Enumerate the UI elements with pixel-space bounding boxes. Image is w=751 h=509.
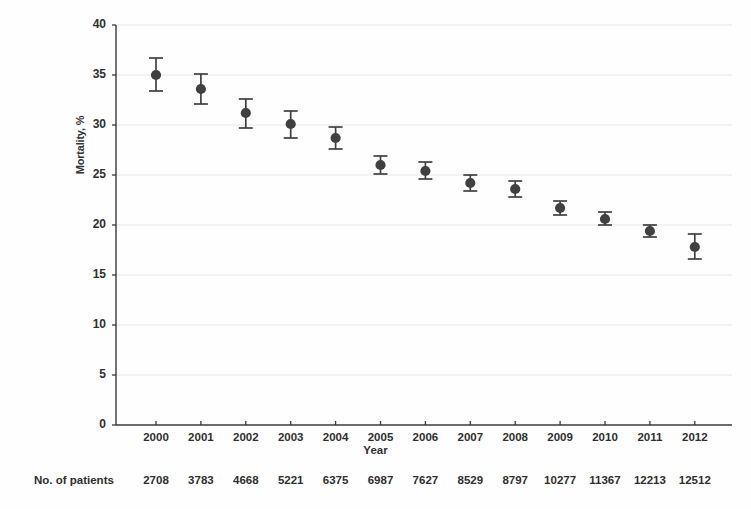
patient-counts-row: No. of patients 270837834668522163756987… [0, 474, 751, 496]
data-point-group [194, 74, 208, 104]
data-point-marker [196, 84, 206, 94]
x-axis-tick-label: 2012 [667, 431, 723, 443]
data-point-marker [375, 160, 385, 170]
data-point-group [239, 99, 253, 128]
data-point-group [418, 162, 432, 179]
data-point-group [284, 111, 298, 138]
x-axis-title: Year [0, 444, 751, 456]
y-axis-tick-label: 20 [70, 217, 106, 231]
data-point-group [463, 175, 477, 191]
data-point-group [688, 234, 702, 259]
data-point-group [329, 127, 343, 149]
data-point-group [149, 58, 163, 91]
data-point-group [643, 225, 657, 237]
y-axis-tick-label: 30 [70, 117, 106, 131]
data-point-marker [645, 226, 655, 236]
data-point-marker [510, 184, 520, 194]
y-axis-tick-label: 25 [70, 167, 106, 181]
y-axis-tick-label: 15 [70, 267, 106, 281]
data-point-marker [420, 166, 430, 176]
y-axis-title: Mortality, % [74, 85, 86, 205]
data-point-marker [690, 242, 700, 252]
data-point-marker [151, 70, 161, 80]
y-axis-tick-label: 35 [70, 67, 106, 81]
data-point-group [598, 212, 612, 225]
patient-counts-label: No. of patients [34, 474, 114, 486]
patient-count-value: 12512 [667, 474, 723, 486]
data-point-marker [286, 119, 296, 129]
y-axis-tick-label: 5 [70, 367, 106, 381]
data-point-marker [465, 178, 475, 188]
data-point-group [553, 201, 567, 215]
y-axis-tick-label: 40 [70, 17, 106, 31]
data-point-marker [241, 108, 251, 118]
data-point-marker [331, 133, 341, 143]
data-point-group [374, 156, 388, 174]
data-point-marker [600, 214, 610, 224]
data-point-group [508, 181, 522, 197]
y-axis-tick-label: 0 [70, 417, 106, 431]
y-axis-tick-label: 10 [70, 317, 106, 331]
figure-panel: Mortality, % Year 0510152025303540 20002… [0, 0, 751, 509]
data-point-marker [555, 203, 565, 213]
